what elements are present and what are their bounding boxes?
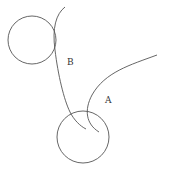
label-b: B [67,57,74,67]
label-a: A [104,95,112,105]
diagram-canvas: B A [0,0,173,178]
circle-a [57,111,109,163]
curve-toward-a [87,55,157,132]
circle-b [8,16,56,64]
